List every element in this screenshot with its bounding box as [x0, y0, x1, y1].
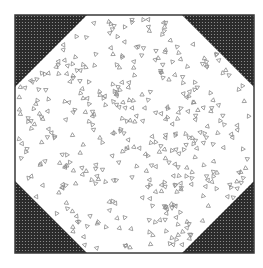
triangle-glyph — [193, 118, 197, 122]
triangle-glyph — [92, 21, 96, 25]
triangle-glyph — [171, 174, 175, 178]
triangle-glyph — [182, 81, 186, 85]
triangle-glyph — [78, 80, 82, 84]
triangle-glyph — [216, 131, 220, 135]
triangle-glyph — [151, 204, 155, 208]
triangle-glyph — [164, 211, 168, 215]
triangle-glyph — [206, 204, 210, 208]
triangle-glyph — [200, 218, 204, 222]
triangle-glyph — [194, 146, 198, 150]
triangle-glyph — [195, 86, 199, 90]
triangle-glyph — [45, 136, 49, 140]
triangle-glyph — [18, 112, 22, 116]
triangle-glyph — [168, 38, 172, 42]
triangle-glyph — [68, 79, 72, 83]
triangle-glyph — [80, 166, 84, 170]
triangle-glyph-field — [17, 17, 251, 250]
triangle-glyph — [148, 230, 152, 234]
triangle-glyph — [205, 60, 209, 64]
triangle-glyph — [70, 209, 74, 213]
triangle-glyph — [43, 160, 47, 164]
triangle-glyph — [182, 148, 186, 152]
triangle-glyph — [17, 107, 21, 111]
triangle-glyph — [176, 222, 180, 226]
triangle-glyph — [121, 100, 125, 104]
triangle-glyph — [117, 105, 121, 109]
triangle-glyph — [244, 166, 248, 170]
triangle-glyph — [104, 225, 108, 229]
triangle-glyph — [98, 89, 102, 93]
triangle-glyph — [167, 77, 171, 81]
triangle-glyph — [32, 107, 36, 111]
triangle-glyph — [190, 170, 194, 174]
triangle-glyph — [196, 108, 200, 112]
triangle-glyph — [111, 179, 115, 183]
triangle-glyph — [107, 200, 111, 204]
triangle-glyph — [159, 144, 163, 148]
triangle-glyph — [110, 154, 114, 158]
triangle-glyph — [161, 76, 165, 80]
triangle-glyph — [57, 71, 61, 75]
triangle-glyph — [64, 71, 68, 75]
triangle-glyph — [184, 95, 188, 99]
triangle-glyph — [128, 245, 132, 249]
triangle-glyph — [162, 29, 166, 33]
triangle-glyph — [61, 43, 65, 47]
triangle-glyph — [235, 123, 239, 127]
triangle-glyph — [75, 69, 79, 73]
triangle-glyph — [149, 242, 153, 246]
triangle-glyph — [203, 131, 207, 135]
triangle-glyph — [81, 235, 85, 239]
triangle-glyph — [132, 145, 136, 149]
triangle-glyph — [61, 48, 65, 52]
triangle-glyph — [221, 145, 225, 149]
triangle-glyph — [90, 110, 94, 114]
triangle-glyph — [44, 89, 48, 93]
triangle-glyph — [159, 183, 163, 187]
triangle-glyph — [91, 128, 95, 132]
triangle-glyph — [140, 119, 144, 123]
triangle-glyph — [235, 179, 239, 183]
triangle-glyph — [94, 167, 98, 171]
triangle-glyph — [68, 160, 72, 164]
triangle-glyph — [227, 74, 231, 78]
triangle-glyph — [135, 164, 139, 168]
triangle-glyph — [239, 181, 243, 185]
triangle-glyph — [123, 106, 127, 110]
triangle-glyph — [109, 46, 113, 50]
triangle-glyph — [147, 218, 151, 222]
triangle-glyph — [146, 17, 150, 21]
triangle-glyph — [142, 18, 146, 22]
triangle-glyph — [154, 140, 158, 144]
triangle-glyph — [131, 98, 135, 102]
triangle-glyph — [242, 99, 246, 103]
triangle-glyph — [91, 123, 95, 127]
triangle-glyph — [187, 90, 191, 94]
triangle-glyph — [88, 102, 92, 106]
triangle-glyph — [56, 63, 60, 67]
triangle-glyph — [216, 103, 220, 107]
triangle-glyph — [120, 116, 124, 120]
triangle-glyph — [173, 73, 177, 77]
triangle-glyph — [176, 116, 180, 120]
triangle-glyph — [134, 114, 138, 118]
triangle-glyph — [63, 118, 67, 122]
triangle-glyph — [94, 52, 98, 56]
triangle-glyph — [147, 178, 151, 182]
triangle-glyph — [126, 85, 130, 89]
octagon-pattern-figure — [0, 0, 263, 268]
triangle-glyph — [204, 175, 208, 179]
triangle-glyph — [71, 225, 75, 229]
triangle-glyph — [94, 182, 98, 186]
triangle-glyph — [201, 106, 205, 110]
triangle-glyph — [130, 106, 134, 110]
triangle-glyph — [176, 110, 180, 114]
triangle-glyph — [140, 54, 144, 58]
triangle-glyph — [178, 181, 182, 185]
triangle-glyph — [45, 109, 49, 113]
triangle-glyph — [23, 86, 27, 90]
triangle-glyph — [165, 229, 169, 233]
triangle-glyph — [127, 98, 131, 102]
triangle-glyph — [129, 227, 133, 231]
triangle-glyph — [202, 163, 206, 167]
